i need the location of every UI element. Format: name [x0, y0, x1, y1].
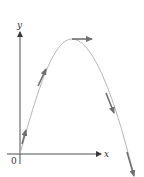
final-velocity-arrow-icon: [127, 152, 134, 176]
y-axis-label: y: [16, 20, 23, 30]
x-axis-label: x: [104, 149, 109, 159]
launch-velocity-arrow-icon: [22, 130, 26, 144]
origin-label: 0: [11, 156, 17, 166]
projectile-diagram: y x 0: [0, 0, 144, 177]
trajectory-curve: [20, 39, 134, 176]
rising-velocity-arrow-icon: [38, 69, 46, 86]
